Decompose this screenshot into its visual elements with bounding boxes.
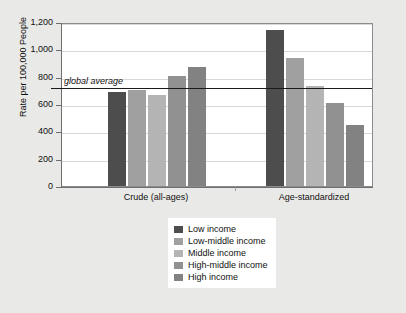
legend-color-swatch (174, 262, 183, 269)
legend-item: High income (174, 271, 268, 283)
y-axis-tick-mark (56, 187, 61, 188)
y-axis-tick-label: 800 (38, 73, 53, 82)
legend-color-swatch (174, 226, 183, 233)
legend-color-swatch (174, 250, 183, 257)
bar (148, 95, 166, 186)
legend-item: High-middle income (174, 259, 268, 271)
y-axis-tick-mark (56, 78, 61, 79)
legend-color-swatch (174, 274, 183, 281)
y-axis-tick-label: 1,000 (30, 45, 53, 54)
legend-item: Low-middle income (174, 235, 268, 247)
y-axis-tick-label: 200 (38, 155, 53, 164)
bar (346, 125, 364, 187)
bar (188, 67, 206, 186)
y-axis-line (61, 23, 62, 187)
legend-color-swatch (174, 238, 183, 245)
bar (128, 90, 146, 186)
bar (108, 92, 126, 186)
bar (306, 86, 324, 186)
y-axis-tick-label: 600 (38, 100, 53, 109)
legend-item-label: Middle income (188, 248, 246, 259)
y-axis-tick-label: 0 (48, 182, 53, 191)
legend-item: Low income (174, 223, 268, 235)
gridline (62, 51, 372, 52)
global-average-line (51, 88, 372, 89)
legend-item-label: Low-middle income (188, 236, 266, 247)
plot-area: global average (61, 23, 373, 187)
y-axis-tick-label: 1,200 (30, 18, 53, 27)
y-axis-tick-mark (56, 105, 61, 106)
y-axis-tick-mark (56, 160, 61, 161)
bar-chart-figure: global average 1,2001,0008006004002000 R… (0, 0, 406, 313)
x-axis-separator-tick (235, 187, 236, 191)
y-axis-tick-mark (56, 23, 61, 24)
legend-item-label: High income (188, 272, 238, 283)
y-axis-tick-mark (56, 132, 61, 133)
global-average-label: global average (64, 76, 123, 86)
y-axis-tick-label: 400 (38, 127, 53, 136)
y-axis-tick-mark (56, 50, 61, 51)
legend-item: Middle income (174, 247, 268, 259)
legend-item-label: Low income (188, 224, 236, 235)
gridline (62, 24, 372, 25)
x-axis-group-label: Age-standardized (244, 192, 384, 202)
x-axis-group-label: Crude (all-ages) (86, 192, 226, 202)
x-axis-line (61, 187, 373, 188)
bar (286, 58, 304, 186)
bar (266, 30, 284, 186)
legend-item-label: High-middle income (188, 260, 268, 271)
bar (168, 76, 186, 186)
y-axis-title: Rate per 100,000 People (18, 0, 28, 137)
legend: Low incomeLow-middle incomeMiddle income… (168, 218, 276, 288)
bar (326, 103, 344, 186)
